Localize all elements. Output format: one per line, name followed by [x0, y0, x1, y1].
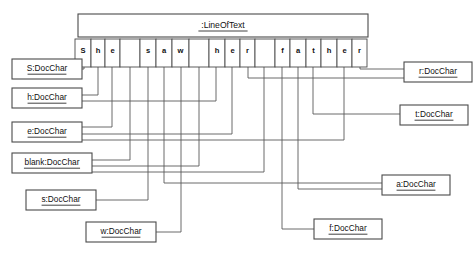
character-cell[interactable]: a	[156, 39, 172, 67]
character-cell-label: r	[246, 46, 249, 55]
association-link	[82, 67, 112, 127]
obj-r[interactable]: r:DocChar	[404, 62, 472, 82]
object-diagram-canvas: Shesawherfather :LineOfText S:DocCharh:D…	[0, 0, 476, 258]
character-cell-box[interactable]	[120, 39, 140, 67]
character-cell-box[interactable]	[189, 39, 209, 67]
character-cell[interactable]: a	[290, 39, 306, 67]
character-cell-label: h	[96, 46, 101, 55]
character-cell[interactable]	[255, 39, 275, 67]
obj-e[interactable]: e:DocChar	[12, 122, 82, 142]
association-links-layer	[82, 67, 404, 232]
character-cell-label: h	[327, 46, 332, 55]
character-cell-box[interactable]	[255, 39, 275, 67]
character-cell-label: r	[358, 46, 361, 55]
association-link	[92, 67, 199, 166]
association-link	[82, 67, 232, 134]
association-link	[313, 67, 400, 114]
character-cell[interactable]: s	[140, 39, 156, 67]
line-of-text-object-layer: :LineOfText	[78, 14, 368, 37]
line-of-text-label: :LineOfText	[201, 20, 245, 30]
docchar-objects-layer: S:DocCharh:DocChare:DocCharblank:DocChar…	[12, 59, 472, 242]
association-link	[92, 67, 264, 172]
character-cell-label: e	[342, 46, 346, 55]
obj-w[interactable]: w:DocChar	[86, 222, 156, 242]
obj-s-label: s:DocChar	[41, 194, 80, 204]
obj-f-label: f:DocChar	[329, 223, 367, 233]
character-cell[interactable]: r	[352, 39, 367, 67]
obj-a-label: a:DocChar	[396, 179, 436, 189]
character-cells-layer: Shesawherfather	[75, 39, 367, 67]
association-link	[156, 67, 181, 232]
character-cell-label: S	[80, 46, 85, 55]
character-cell-label: e	[230, 46, 234, 55]
character-cell[interactable]: h	[209, 39, 225, 67]
association-link	[82, 67, 98, 95]
character-cell[interactable]: w	[172, 39, 189, 67]
obj-r-label: r:DocChar	[419, 66, 457, 76]
character-cell-label: e	[110, 46, 114, 55]
diagram-svg: Shesawherfather :LineOfText S:DocCharh:D…	[0, 0, 476, 258]
character-cell[interactable]: r	[240, 39, 255, 67]
character-cell[interactable]	[189, 39, 209, 67]
obj-h[interactable]: h:DocChar	[12, 88, 82, 108]
obj-blank[interactable]: blank:DocChar	[12, 153, 92, 173]
obj-a[interactable]: a:DocChar	[382, 175, 450, 195]
character-cell[interactable]: h	[91, 39, 105, 67]
character-cell[interactable]: e	[337, 39, 352, 67]
character-cell[interactable]	[120, 39, 140, 67]
obj-S-label: S:DocChar	[27, 63, 68, 73]
association-link	[96, 67, 148, 200]
obj-t-label: t:DocChar	[415, 109, 453, 119]
obj-blank-label: blank:DocChar	[25, 157, 80, 167]
character-cell[interactable]: h	[321, 39, 337, 67]
obj-t[interactable]: t:DocChar	[400, 105, 468, 125]
obj-s[interactable]: s:DocChar	[26, 190, 96, 210]
obj-S[interactable]: S:DocChar	[12, 59, 82, 79]
obj-w-label: w:DocChar	[99, 226, 141, 236]
character-cell-label: h	[215, 46, 220, 55]
obj-e-label: e:DocChar	[27, 126, 67, 136]
character-cell[interactable]: f	[275, 39, 290, 67]
obj-h-label: h:DocChar	[27, 92, 67, 102]
character-cell[interactable]: e	[225, 39, 240, 67]
character-cell[interactable]: t	[306, 39, 321, 67]
character-cell[interactable]: e	[105, 39, 120, 67]
obj-f[interactable]: f:DocChar	[314, 219, 382, 239]
association-link	[82, 67, 216, 101]
character-cell-label: s	[146, 46, 150, 55]
association-link	[298, 67, 382, 189]
character-cell-label: w	[177, 46, 184, 55]
